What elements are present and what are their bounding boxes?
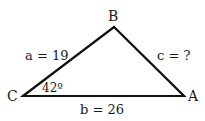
vertex-label-a: A — [187, 88, 199, 104]
side-label-c: c = ? — [157, 48, 190, 63]
side-label-b: b = 26 — [80, 102, 124, 117]
angle-label-c: 42º — [42, 81, 63, 95]
triangle-diagram: B C A a = 19 c = ? b = 26 42º — [0, 0, 205, 121]
vertex-label-c: C — [7, 88, 18, 104]
vertex-label-b: B — [108, 8, 118, 24]
side-label-a: a = 19 — [25, 48, 68, 63]
